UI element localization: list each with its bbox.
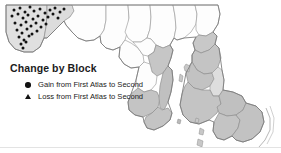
island-smith (197, 139, 203, 147)
region-harford (173, 5, 197, 40)
loss-triangle-marker-icon (24, 92, 34, 102)
island-deal (195, 118, 199, 123)
legend-label-gain: Gain from First Atlas to Second (38, 80, 143, 90)
legend-title: Change by Block (10, 62, 153, 75)
bottom-divider (0, 147, 281, 148)
region-carroll (125, 5, 151, 42)
map-legend: Change by Block Gain from First Atlas to… (8, 62, 153, 103)
island-tilghman (179, 74, 183, 82)
island-poplar (177, 119, 181, 124)
island-hooper (199, 128, 204, 135)
legend-label-loss: Loss from First Atlas to Second (38, 92, 143, 102)
region-cecil (195, 5, 220, 36)
legend-entry-loss: Loss from First Atlas to Second (24, 91, 153, 102)
coastal-outer-line (267, 106, 274, 144)
gain-circle-marker-icon (24, 80, 34, 90)
legend-entry-gain: Gain from First Atlas to Second (24, 79, 153, 90)
figure-canvas: Change by Block Gain from First Atlas to… (0, 0, 281, 153)
